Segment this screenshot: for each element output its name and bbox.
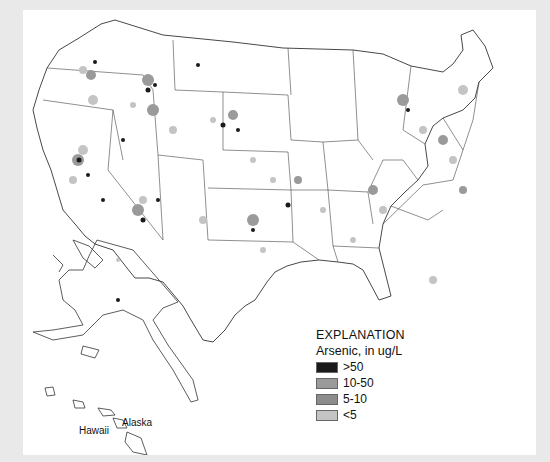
state-boundaries — [43, 40, 479, 262]
legend-swatch-10-50 — [316, 378, 338, 389]
us-arsenic-map — [23, 10, 536, 455]
legend-item-low: <5 — [316, 407, 405, 423]
legend-swatch-5-10 — [316, 394, 338, 405]
legend-title: EXPLANATION — [316, 328, 405, 343]
concentration-points-high — [77, 60, 411, 302]
legend-swatch-high — [316, 362, 338, 373]
map-panel: Alaska Hawaii EXPLANATION Arsenic, in ug… — [23, 10, 536, 455]
legend: EXPLANATION Arsenic, in ug/L >50 10-50 5… — [316, 328, 405, 423]
legend-item-5-10: 5-10 — [316, 391, 405, 407]
legend-swatch-low — [316, 410, 338, 421]
us-outline — [33, 20, 493, 342]
legend-item-high: >50 — [316, 359, 405, 375]
alaska-label: Alaska — [122, 417, 152, 428]
alaska-inset — [33, 240, 198, 402]
hawaii-label: Hawaii — [79, 425, 109, 436]
legend-subtitle: Arsenic, in ug/L — [316, 343, 405, 359]
legend-item-10-50: 10-50 — [316, 375, 405, 391]
